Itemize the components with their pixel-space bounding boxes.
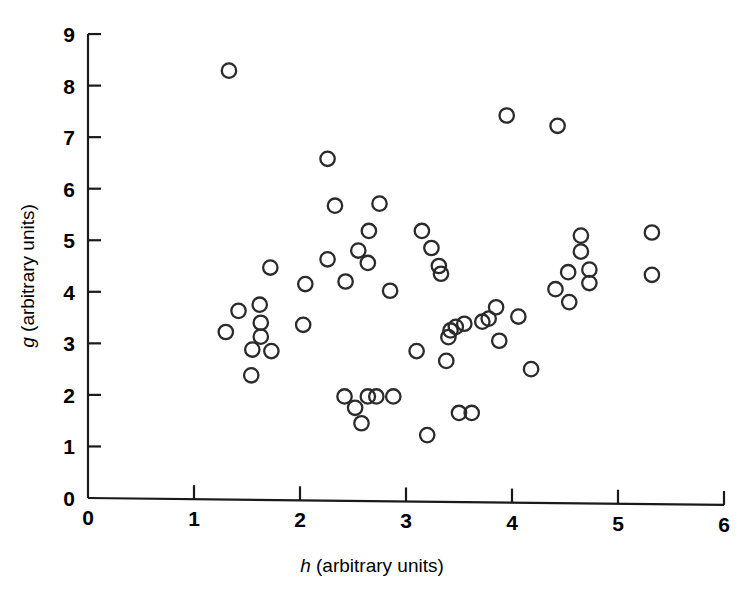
y-tick-label: 0 — [63, 487, 75, 510]
plot-background — [0, 0, 754, 606]
y-tick-label: 9 — [63, 23, 75, 46]
axis-title-variable: g — [17, 337, 38, 348]
y-tick-label: 1 — [63, 435, 75, 458]
axis-title-units: (arbitrary units) — [17, 204, 38, 337]
x-tick-label: 5 — [612, 512, 624, 535]
axis-title-variable: h — [300, 555, 311, 576]
y-tick-label: 4 — [63, 281, 75, 304]
y-tick-label: 6 — [63, 178, 75, 201]
axis-title-units: (arbitrary units) — [311, 555, 444, 576]
x-tick-label: 6 — [718, 513, 730, 536]
x-tick-label: 1 — [188, 507, 200, 530]
y-axis-title: g (arbitrary units) — [17, 204, 38, 348]
x-tick-label: 4 — [506, 511, 518, 534]
y-tick-label: 5 — [63, 229, 75, 252]
y-tick-label: 7 — [63, 126, 75, 149]
y-tick-label: 3 — [63, 332, 75, 355]
x-tick-label: 2 — [294, 508, 306, 531]
scatter-plot-figure: 0123456789 0123456 h (arbitrary units) g… — [0, 0, 754, 606]
x-tick-label: 3 — [400, 509, 412, 532]
y-tick-label: 8 — [63, 75, 75, 98]
x-axis-title: h (arbitrary units) — [300, 555, 444, 576]
plot-canvas: 0123456789 0123456 h (arbitrary units) g… — [0, 0, 754, 606]
x-tick-label: 0 — [82, 506, 94, 529]
y-tick-label: 2 — [63, 384, 75, 407]
